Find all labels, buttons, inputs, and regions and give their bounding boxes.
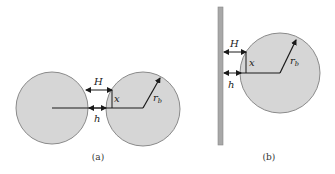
- panel-b: H x h rb (b): [218, 7, 320, 162]
- H-label: H: [93, 76, 103, 87]
- caption-b: (b): [263, 152, 276, 162]
- caption-a: (a): [92, 152, 104, 162]
- h-label: h: [94, 113, 100, 124]
- wall: [218, 7, 223, 145]
- diagram: H x h rb (a) H x h rb (b): [0, 0, 335, 174]
- h-label: h: [228, 79, 234, 90]
- x-label: x: [249, 57, 255, 68]
- x-label: x: [114, 93, 120, 104]
- right-sphere: [106, 72, 180, 146]
- H-label: H: [229, 38, 239, 49]
- panel-a: H x h rb (a): [16, 72, 180, 162]
- radius-label-sub: b: [158, 97, 162, 105]
- radius-label-sub: b: [295, 60, 299, 68]
